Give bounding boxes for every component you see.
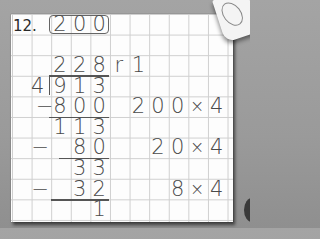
remainder-label: r bbox=[109, 55, 129, 76]
times-sign: × bbox=[187, 138, 207, 159]
minus-sign: − bbox=[31, 179, 51, 200]
result-digit: 3 bbox=[89, 158, 109, 179]
subtract-digit: 0 bbox=[89, 96, 109, 117]
subtract-digit: 8 bbox=[50, 96, 70, 117]
subtract-digit: 0 bbox=[70, 96, 90, 117]
minus-sign: − bbox=[31, 138, 51, 159]
problem-number: 12. bbox=[13, 16, 43, 36]
result-digit: 1 bbox=[50, 117, 70, 138]
remainder-value: 1 bbox=[129, 55, 149, 76]
final-remainder: 1 bbox=[89, 199, 109, 220]
note-digit: 8 bbox=[168, 179, 188, 200]
estimate-digit: 2 bbox=[50, 14, 70, 35]
dark-object-edge bbox=[244, 198, 250, 222]
note-digit: 0 bbox=[168, 138, 188, 159]
result-digit: 3 bbox=[70, 158, 90, 179]
subtract-digit: 3 bbox=[70, 179, 90, 200]
times-sign: × bbox=[187, 96, 207, 117]
times-sign: × bbox=[187, 179, 207, 200]
quotient-digit: 8 bbox=[89, 55, 109, 76]
note-digit: 2 bbox=[129, 96, 149, 117]
note-digit: 0 bbox=[148, 96, 168, 117]
estimate-digit: 0 bbox=[70, 14, 90, 35]
note-digit: 0 bbox=[168, 96, 188, 117]
oval-outline-icon bbox=[217, 0, 247, 30]
quotient-digit: 2 bbox=[50, 55, 70, 76]
estimate-digit: 0 bbox=[89, 14, 109, 35]
note-digit: 2 bbox=[148, 138, 168, 159]
note-digit: 4 bbox=[207, 138, 227, 159]
note-digit: 4 bbox=[207, 179, 227, 200]
grid-paper-worksheet: 12. 2 0 0 2 2 8 r 1 4 9 1 3 − 8 0 0 2 0 … bbox=[11, 14, 233, 222]
quotient-digit: 2 bbox=[70, 55, 90, 76]
note-digit: 4 bbox=[207, 96, 227, 117]
